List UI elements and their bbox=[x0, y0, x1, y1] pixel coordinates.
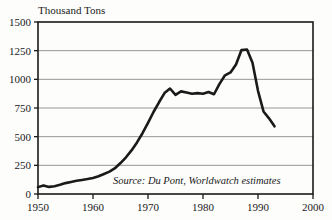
y-tick-label-250: 250 bbox=[15, 159, 32, 171]
x-tick-label-2000: 2000 bbox=[302, 201, 325, 213]
y-tick-label-1250: 1250 bbox=[9, 45, 32, 57]
data-line-cfc-production bbox=[38, 50, 275, 188]
y-tick-label-750: 750 bbox=[15, 102, 32, 114]
x-tick-label-1960: 1960 bbox=[82, 201, 105, 213]
source-annotation: Source: Du Pont, Worldwatch estimates bbox=[113, 175, 281, 186]
gridlines bbox=[38, 51, 313, 166]
x-axis-ticks: 195019601970198019902000 bbox=[27, 194, 325, 213]
x-tick-label-1980: 1980 bbox=[192, 201, 215, 213]
y-tick-label-500: 500 bbox=[15, 131, 32, 143]
y-tick-label-1500: 1500 bbox=[9, 16, 32, 28]
x-tick-label-1970: 1970 bbox=[137, 201, 160, 213]
y-tick-label-0: 0 bbox=[26, 188, 32, 200]
y-axis-title: Thousand Tons bbox=[38, 4, 105, 16]
y-tick-label-1000: 1000 bbox=[9, 73, 32, 85]
x-tick-label-1950: 1950 bbox=[27, 201, 50, 213]
cfc-production-line-chart: Thousand Tons 0250500750100012501500 195… bbox=[0, 0, 332, 220]
y-axis-ticks: 0250500750100012501500 bbox=[9, 16, 38, 200]
chart-page: Thousand Tons 0250500750100012501500 195… bbox=[0, 0, 332, 220]
x-tick-label-1990: 1990 bbox=[247, 201, 270, 213]
